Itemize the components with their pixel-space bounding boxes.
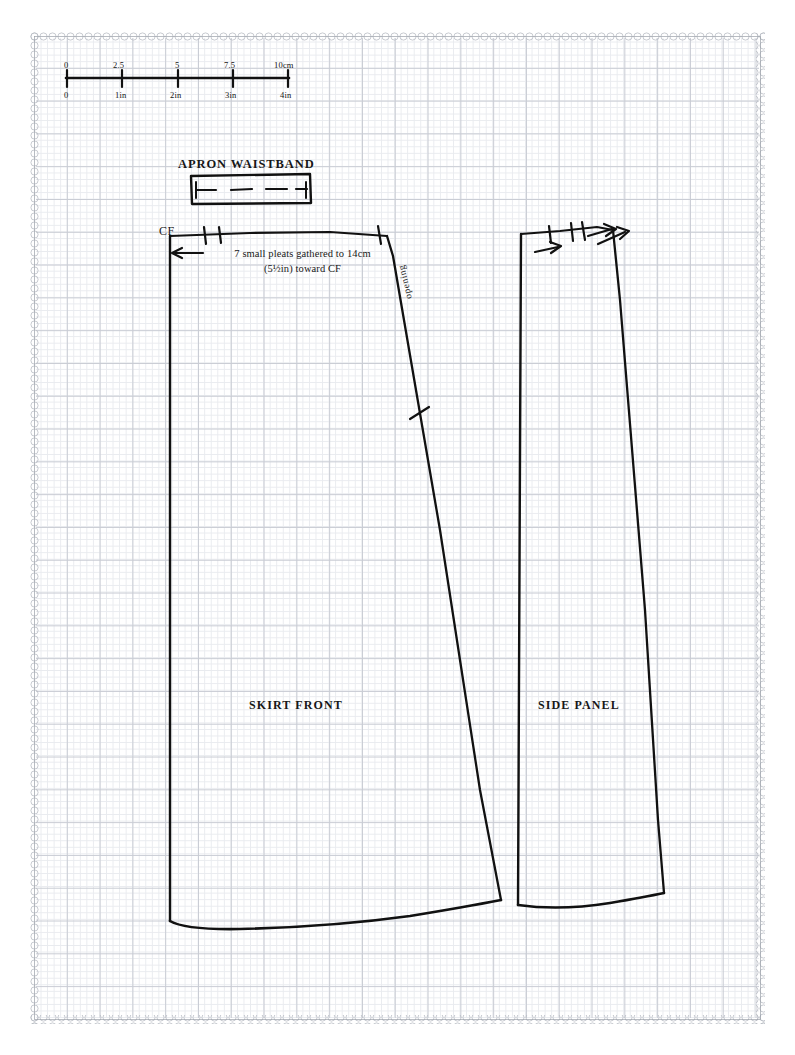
pattern-sheet: 0 2.5 5 7.5 10cm 0 1in 2in 3in 4in APRON… [0, 0, 795, 1055]
cf-direction-arrow [172, 248, 203, 258]
scale-cm-2-5: 2.5 [113, 60, 124, 70]
scale-in-0: 0 [64, 90, 68, 100]
scale-cm-0: 0 [64, 60, 68, 70]
apron-waistband-outline [191, 174, 311, 204]
scale-cm-10: 10cm [274, 60, 294, 70]
center-front-label: CF [159, 224, 174, 239]
scale-in-3: 3in [225, 90, 236, 100]
scale-cm-7-5: 7.5 [224, 60, 235, 70]
pattern-linework [0, 0, 795, 1055]
scale-bar-rule [66, 70, 289, 87]
scale-cm-5: 5 [175, 60, 179, 70]
scale-in-2: 2in [170, 90, 181, 100]
side-panel-title: SIDE PANEL [538, 698, 620, 713]
skirt-front-notches [204, 226, 381, 244]
skirt-front-outline [170, 232, 501, 929]
scale-bar-imperial-labels: 0 1in 2in 3in 4in [58, 90, 308, 102]
pleat-instruction-note: 7 small pleats gathered to 14cm (5½in) t… [220, 246, 385, 276]
scale-bar-metric-labels: 0 2.5 5 7.5 10cm [58, 60, 308, 72]
scale-in-4: 4in [280, 90, 291, 100]
side-panel-outline [518, 227, 664, 908]
scale-in-1: 1in [115, 90, 126, 100]
skirt-front-title: SKIRT FRONT [249, 698, 343, 713]
apron-waistband-title: APRON WAISTBAND [178, 157, 315, 172]
